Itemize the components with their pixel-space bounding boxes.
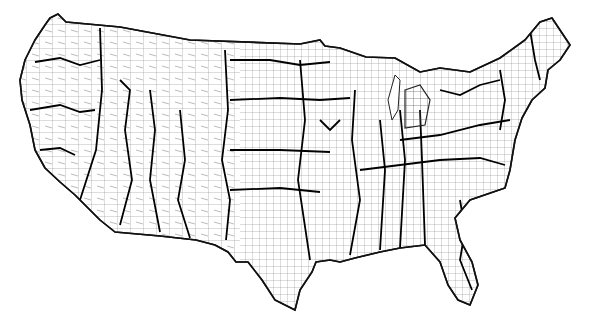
us-county-map (0, 0, 591, 335)
eastern-counties (240, 0, 591, 335)
contiguous-us (0, 0, 591, 335)
western-counties (0, 0, 240, 335)
